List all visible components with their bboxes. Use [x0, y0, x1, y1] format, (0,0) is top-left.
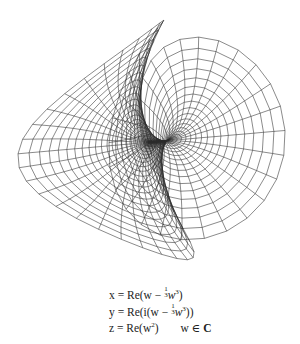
formula-x: x = Re(w − 13w3) [109, 286, 211, 303]
domain-w: w ∈ [181, 322, 204, 334]
parameter-radial-line [133, 23, 160, 142]
paren: )) [186, 306, 194, 318]
parameter-radial-line [152, 141, 265, 201]
parameter-radial-line [18, 142, 152, 154]
formula-z: z = Re(w2)w ∈ C [109, 319, 211, 335]
formula-x-lhs: x = Re(w − [109, 289, 164, 301]
formula-z-lhs: z = Re(w [109, 322, 151, 334]
enneper-surface-wireframe [0, 0, 300, 272]
domain-statement: w ∈ C [181, 322, 212, 334]
parametrization-formulas: x = Re(w − 13w3) y = Re(i(w − 13w3)) z =… [109, 286, 211, 335]
formula-y: y = Re(i(w − 13w3)) [109, 303, 211, 320]
paren: ) [179, 289, 183, 301]
parameter-radial-line [148, 142, 193, 258]
parameter-radial-line [140, 28, 158, 142]
paren: ) [155, 322, 159, 334]
complex-set: C [203, 322, 211, 334]
formula-y-lhs: y = Re(i(w − [109, 306, 171, 318]
